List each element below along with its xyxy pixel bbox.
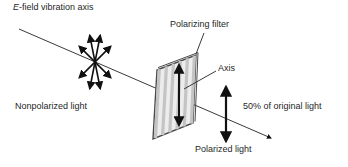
light-ray-line <box>19 29 271 138</box>
fifty-percent-label: 50% of original light <box>243 101 322 112</box>
efield-axis-label-rest: -field vibration axis <box>19 2 94 12</box>
polarizing-filter-label: Polarizing filter <box>170 19 229 30</box>
axis-label: Axis <box>218 63 235 74</box>
efield-axis-label: E-field vibration axis <box>13 2 94 13</box>
efield-starburst <box>79 36 110 89</box>
polarized-light-label: Polarized light <box>195 144 252 155</box>
nonpolarized-light-label: Nonpolarized light <box>15 101 87 112</box>
polarization-diagram: E-field vibration axis Polarizing filter… <box>0 0 348 167</box>
polarizing-filter-shape <box>153 53 198 139</box>
leader-line-filter <box>196 33 204 54</box>
